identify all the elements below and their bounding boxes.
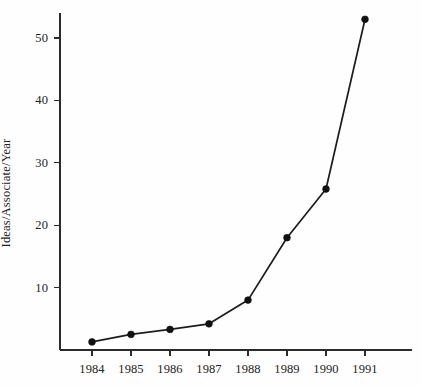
- y-tick-label: 30: [18, 157, 48, 170]
- data-point-marker: [362, 16, 369, 23]
- x-tick-marks: [92, 350, 365, 356]
- series-markers: [89, 16, 369, 345]
- x-tick-label: 1988: [235, 363, 260, 376]
- plot-area: [0, 0, 422, 386]
- y-tick-label: 10: [18, 281, 48, 294]
- data-point-marker: [284, 234, 291, 241]
- x-tick-label: 1987: [196, 363, 221, 376]
- x-tick-label: 1984: [79, 363, 104, 376]
- data-point-marker: [167, 326, 174, 333]
- data-point-marker: [245, 297, 252, 304]
- x-tick-label: 1985: [118, 363, 143, 376]
- x-tick-label: 1986: [157, 363, 182, 376]
- data-point-marker: [89, 338, 96, 345]
- data-series-group: [89, 16, 369, 345]
- y-tick-label: 20: [18, 219, 48, 232]
- data-point-marker: [206, 320, 213, 327]
- x-tick-label: 1990: [313, 363, 338, 376]
- x-tick-label: 1991: [352, 363, 377, 376]
- chart-container: Ideas/Associate/Year 1020304050 19841985…: [0, 0, 422, 386]
- series-line-ideas-per-associate: [92, 19, 365, 342]
- x-tick-label: 1989: [274, 363, 299, 376]
- y-tick-label: 50: [18, 32, 48, 45]
- axes-group: [60, 13, 412, 350]
- data-point-marker: [323, 186, 330, 193]
- data-point-marker: [128, 331, 135, 338]
- y-tick-label: 40: [18, 94, 48, 107]
- y-tick-marks: [54, 38, 60, 288]
